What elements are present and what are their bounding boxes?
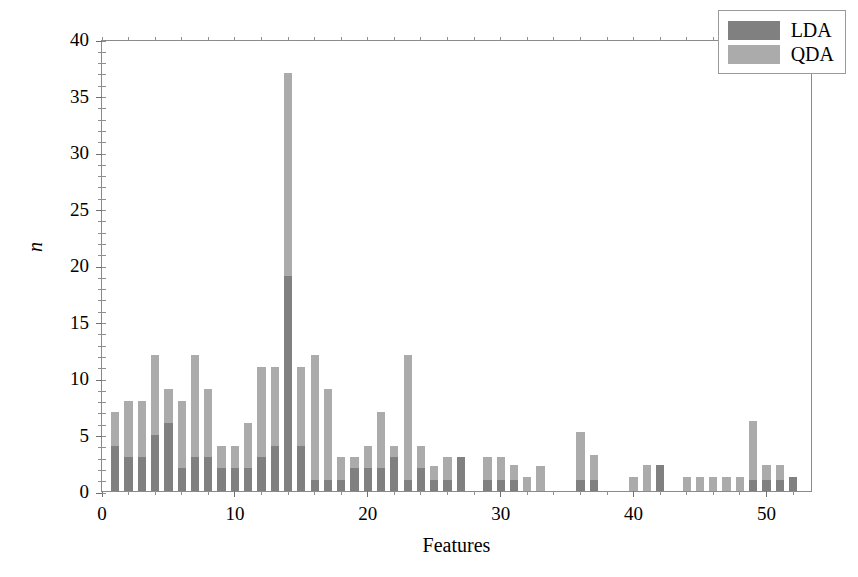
bar bbox=[536, 466, 544, 491]
bar-segment-qda bbox=[443, 457, 451, 480]
x-axis-label: Features bbox=[101, 534, 812, 556]
x-tick-top-mark bbox=[713, 37, 714, 41]
x-tick-minor-mark bbox=[420, 491, 421, 495]
bar-segment-lda bbox=[457, 457, 465, 491]
bar bbox=[709, 477, 717, 491]
x-tick-minor-mark bbox=[341, 491, 342, 495]
bar-segment-qda bbox=[762, 465, 770, 480]
y-tick-right-mark bbox=[102, 334, 106, 335]
bar-segment-lda bbox=[430, 480, 438, 491]
x-tick-mark bbox=[367, 491, 368, 497]
bar-segment-lda bbox=[483, 480, 491, 491]
y-tick-label: 30 bbox=[70, 143, 89, 163]
x-tick-minor-mark bbox=[713, 491, 714, 495]
bar-segment-lda bbox=[191, 457, 199, 491]
y-tick-right-mark bbox=[102, 470, 106, 471]
bar-segment-qda bbox=[722, 477, 730, 491]
x-tick-top-mark bbox=[128, 37, 129, 41]
bar-segment-lda bbox=[244, 468, 252, 491]
x-tick-top-mark bbox=[261, 37, 262, 41]
bar-segment-lda bbox=[111, 446, 119, 491]
bar-segment-lda bbox=[138, 457, 146, 491]
y-tick-right-mark bbox=[102, 52, 106, 53]
x-tick-top-mark bbox=[580, 37, 581, 41]
x-tick-minor-mark bbox=[660, 491, 661, 495]
bar bbox=[217, 446, 225, 491]
bar-segment-qda bbox=[217, 446, 225, 469]
x-tick-top-mark bbox=[234, 37, 235, 41]
bar bbox=[311, 355, 319, 491]
bar-segment-qda bbox=[377, 412, 385, 469]
x-tick-label: 20 bbox=[338, 503, 398, 525]
legend-swatch-lda bbox=[728, 21, 780, 40]
bar bbox=[776, 465, 784, 491]
bar bbox=[749, 421, 757, 491]
x-tick-minor-mark bbox=[394, 491, 395, 495]
bar bbox=[124, 401, 132, 491]
y-tick-right-mark bbox=[102, 413, 106, 414]
x-tick-minor-mark bbox=[793, 491, 794, 495]
bar bbox=[350, 457, 358, 491]
legend-item-lda: LDA bbox=[728, 18, 834, 42]
bar-segment-qda bbox=[430, 466, 438, 480]
y-tick-right-mark bbox=[102, 459, 106, 460]
x-tick-minor-mark bbox=[288, 491, 289, 495]
bar-segment-lda bbox=[337, 480, 345, 491]
x-tick-top-mark bbox=[288, 37, 289, 41]
bar-segment-qda bbox=[709, 477, 717, 491]
bar-segment-qda bbox=[191, 355, 199, 457]
bar-segment-lda bbox=[789, 477, 797, 491]
x-tick-top-mark bbox=[527, 37, 528, 41]
x-tick-top-mark bbox=[420, 37, 421, 41]
bar-segment-qda bbox=[590, 455, 598, 480]
x-tick-top-mark bbox=[155, 37, 156, 41]
x-tick-top-mark bbox=[181, 37, 182, 41]
bar-segment-qda bbox=[390, 446, 398, 457]
bar bbox=[443, 457, 451, 491]
bar-segment-qda bbox=[350, 457, 358, 468]
y-tick-right-mark bbox=[102, 391, 106, 392]
y-tick-label: 40 bbox=[70, 30, 89, 50]
bar-segment-lda bbox=[311, 480, 319, 491]
bar bbox=[510, 465, 518, 491]
y-tick-right-mark bbox=[102, 447, 106, 448]
bar bbox=[483, 457, 491, 491]
x-tick-label: 30 bbox=[471, 503, 531, 525]
y-tick-right-mark bbox=[102, 131, 106, 132]
bar bbox=[284, 73, 292, 491]
y-tick-right-mark bbox=[102, 210, 106, 211]
y-tick-right-mark bbox=[102, 493, 106, 494]
bar bbox=[404, 355, 412, 491]
y-tick-right-mark bbox=[102, 142, 106, 143]
x-tick-minor-mark bbox=[314, 491, 315, 495]
bar-segment-qda bbox=[284, 73, 292, 276]
y-tick-right-mark bbox=[102, 402, 106, 403]
bar-segment-lda bbox=[164, 423, 172, 491]
bar-segment-qda bbox=[244, 423, 252, 468]
bar-segment-lda bbox=[271, 446, 279, 491]
x-tick-label: 10 bbox=[205, 503, 265, 525]
bar bbox=[111, 412, 119, 491]
y-tick-label: 10 bbox=[70, 369, 89, 389]
bar bbox=[337, 457, 345, 491]
y-tick-right-mark bbox=[102, 86, 106, 87]
x-tick-minor-mark bbox=[128, 491, 129, 495]
y-tick-right-mark bbox=[102, 312, 106, 313]
bar-segment-qda bbox=[231, 446, 239, 469]
bar-segment-qda bbox=[151, 355, 159, 434]
bar-segment-lda bbox=[350, 468, 358, 491]
x-tick-minor-mark bbox=[739, 491, 740, 495]
bar bbox=[789, 477, 797, 491]
y-tick-label: 35 bbox=[70, 87, 89, 107]
legend-swatch-qda bbox=[728, 45, 780, 64]
bar bbox=[417, 446, 425, 491]
bar-segment-lda bbox=[417, 468, 425, 491]
bar bbox=[138, 401, 146, 491]
bar bbox=[457, 457, 465, 491]
y-tick-label: 20 bbox=[70, 256, 89, 276]
y-tick-right-mark bbox=[102, 165, 106, 166]
bar-segment-qda bbox=[536, 466, 544, 491]
legend-label-lda: LDA bbox=[791, 20, 832, 40]
y-tick-right-mark bbox=[102, 267, 106, 268]
y-tick-right-mark bbox=[102, 425, 106, 426]
